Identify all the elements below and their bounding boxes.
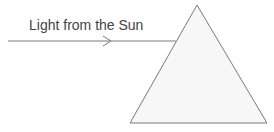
prism-triangle [130, 5, 267, 123]
prism-diagram: Light from the Sun [0, 0, 274, 132]
light-label: Light from the Sun [29, 17, 143, 33]
